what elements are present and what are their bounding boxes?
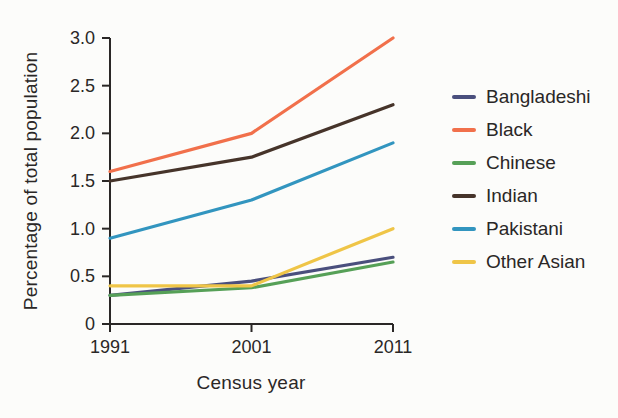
legend-label-indian: Indian	[486, 185, 538, 207]
y-axis-tick-label: 2.0	[70, 123, 95, 143]
legend-swatch-chinese	[452, 161, 476, 165]
legend-item-pakistani: Pakistani	[452, 218, 591, 240]
y-axis-tick-label: 0.5	[70, 266, 95, 286]
legend-item-black: Black	[452, 119, 591, 141]
legend-label-black: Black	[486, 119, 532, 141]
legend-item-indian: Indian	[452, 185, 591, 207]
legend: BangladeshiBlackChineseIndianPakistaniOt…	[452, 86, 591, 273]
legend-item-other-asian: Other Asian	[452, 251, 591, 273]
legend-swatch-other-asian	[452, 260, 476, 264]
legend-label-pakistani: Pakistani	[486, 218, 563, 240]
legend-item-bangladeshi: Bangladeshi	[452, 86, 591, 108]
series-line-black	[110, 38, 393, 171]
x-axis-tick-label: 2001	[231, 337, 271, 357]
x-axis-tick-label: 1991	[90, 337, 130, 357]
y-axis-tick-label: 2.5	[70, 76, 95, 96]
y-axis-tick-label: 3.0	[70, 28, 95, 48]
series-line-indian	[110, 105, 393, 181]
legend-swatch-indian	[452, 194, 476, 198]
series-line-bangladeshi	[110, 257, 393, 295]
x-axis-tick-label: 2011	[374, 337, 413, 357]
legend-label-other-asian: Other Asian	[486, 251, 585, 273]
legend-swatch-pakistani	[452, 227, 476, 231]
series-line-other-asian	[110, 229, 393, 286]
legend-label-chinese: Chinese	[486, 152, 556, 174]
legend-swatch-black	[452, 128, 476, 132]
y-axis-tick-label: 0	[85, 314, 95, 334]
y-axis-tick-label: 1.5	[70, 171, 95, 191]
y-axis-label: Percentage of total population	[20, 52, 42, 310]
legend-label-bangladeshi: Bangladeshi	[486, 86, 591, 108]
legend-swatch-bangladeshi	[452, 95, 476, 99]
x-axis-label: Census year	[197, 372, 306, 394]
y-axis-tick-label: 1.0	[70, 219, 95, 239]
legend-item-chinese: Chinese	[452, 152, 591, 174]
census-ethnicity-line-chart-figure: 00.51.01.52.02.53.0199120012011 Percenta…	[0, 0, 618, 418]
